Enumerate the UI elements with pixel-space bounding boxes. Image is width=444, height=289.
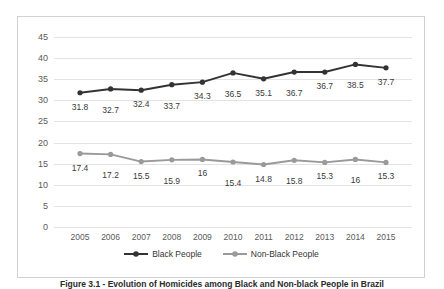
data-point-label: 32.4 bbox=[133, 100, 150, 109]
y-axis-tick-label: 25 bbox=[38, 117, 48, 126]
data-point-marker bbox=[353, 157, 358, 162]
data-point-label: 17.4 bbox=[72, 164, 89, 173]
data-point-marker bbox=[169, 82, 174, 87]
data-point-label: 15.4 bbox=[225, 179, 242, 188]
data-point-label: 35.1 bbox=[255, 89, 272, 98]
x-axis-tick-label: 2007 bbox=[132, 233, 151, 242]
data-point-label: 33.7 bbox=[164, 102, 181, 111]
x-axis-tick-label: 2012 bbox=[285, 233, 304, 242]
data-point-label: 15.8 bbox=[286, 177, 303, 186]
data-point-marker bbox=[108, 152, 113, 157]
data-point-marker bbox=[230, 159, 235, 164]
data-point-label: 36.7 bbox=[286, 89, 303, 98]
data-point-label: 37.7 bbox=[378, 78, 395, 87]
x-axis-tick-label: 2005 bbox=[71, 233, 90, 242]
chart-plot-frame: 051015202530354045 200520062007200820092… bbox=[17, 16, 425, 278]
x-axis-tick-label: 2015 bbox=[377, 233, 396, 242]
x-axis-tick-label: 2010 bbox=[224, 233, 243, 242]
y-axis-tick-label: 30 bbox=[38, 96, 48, 105]
x-axis-tick-label: 2009 bbox=[193, 233, 212, 242]
y-axis-tick-label: 15 bbox=[38, 159, 48, 168]
data-point-label: 15.3 bbox=[378, 172, 395, 181]
y-axis-tick-label: 40 bbox=[38, 54, 48, 63]
data-point-marker bbox=[261, 162, 266, 167]
data-point-marker bbox=[139, 88, 144, 93]
data-point-marker bbox=[139, 159, 144, 164]
data-point-label: 31.8 bbox=[72, 103, 89, 112]
data-point-label: 15.5 bbox=[133, 172, 150, 181]
data-point-label: 36.5 bbox=[225, 90, 242, 99]
data-point-label: 17.2 bbox=[102, 171, 119, 180]
data-point-label: 34.3 bbox=[194, 92, 211, 101]
data-point-label: 32.7 bbox=[102, 106, 119, 115]
data-point-marker bbox=[353, 62, 358, 67]
legend-marker-icon bbox=[123, 249, 149, 259]
figure-caption: Figure 3.1 - Evolution of Homicides amon… bbox=[0, 280, 444, 289]
chart-plot-area: 051015202530354045 200520062007200820092… bbox=[54, 37, 412, 227]
data-point-marker bbox=[292, 158, 297, 163]
data-point-label: 38.5 bbox=[347, 81, 364, 90]
gridline bbox=[54, 227, 412, 228]
data-point-marker bbox=[200, 80, 205, 85]
data-point-marker bbox=[169, 157, 174, 162]
x-axis-tick-label: 2013 bbox=[315, 233, 334, 242]
data-point-marker bbox=[77, 90, 82, 95]
chart-legend: Black PeopleNon-Black People bbox=[18, 249, 424, 259]
data-point-marker bbox=[383, 160, 388, 165]
data-point-marker bbox=[77, 151, 82, 156]
data-point-label: 14.8 bbox=[255, 175, 272, 184]
data-point-marker bbox=[322, 160, 327, 165]
legend-item[interactable]: Black People bbox=[123, 249, 202, 259]
y-axis-tick-label: 10 bbox=[38, 180, 48, 189]
data-point-label: 15.9 bbox=[164, 177, 181, 186]
x-axis-tick-label: 2006 bbox=[101, 233, 120, 242]
data-point-label: 15.3 bbox=[317, 172, 334, 181]
data-point-label: 16 bbox=[198, 169, 207, 178]
y-axis-tick-label: 35 bbox=[38, 75, 48, 84]
y-axis-tick-label: 5 bbox=[43, 201, 48, 210]
y-axis-tick-label: 45 bbox=[38, 33, 48, 42]
data-point-label: 16 bbox=[351, 176, 360, 185]
data-point-marker bbox=[261, 76, 266, 81]
x-axis-tick-label: 2008 bbox=[162, 233, 181, 242]
y-axis-tick-label: 20 bbox=[38, 138, 48, 147]
x-axis-tick-label: 2011 bbox=[254, 233, 272, 242]
legend-item[interactable]: Non-Black People bbox=[222, 249, 319, 259]
x-axis-tick-label: 2014 bbox=[346, 233, 365, 242]
legend-label: Non-Black People bbox=[251, 250, 319, 259]
y-axis-tick-label: 0 bbox=[43, 223, 48, 232]
series-lines bbox=[54, 37, 412, 227]
data-point-marker bbox=[292, 69, 297, 74]
data-point-marker bbox=[230, 70, 235, 75]
data-point-label: 36.7 bbox=[317, 82, 334, 91]
data-point-marker bbox=[383, 65, 388, 70]
data-point-marker bbox=[322, 69, 327, 74]
data-point-marker bbox=[108, 86, 113, 91]
data-point-marker bbox=[200, 157, 205, 162]
legend-marker-icon bbox=[222, 249, 248, 259]
legend-label: Black People bbox=[152, 250, 202, 259]
